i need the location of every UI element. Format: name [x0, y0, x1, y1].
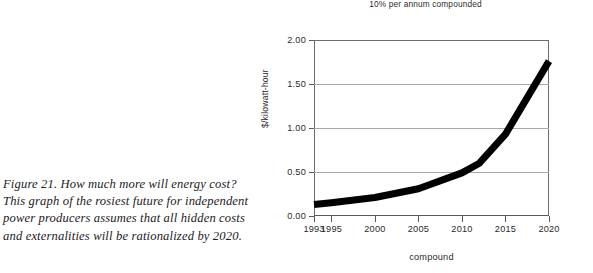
- chart-subtitle: 10% per annum compounded: [258, 0, 593, 10]
- x-tick-label: 2005: [408, 224, 429, 234]
- caption-line: and externalities will be rationalized b…: [3, 228, 251, 245]
- chart-figure: 10% per annum compounded $/kilowatt-hour…: [258, 0, 593, 273]
- y-tick-label: 0.50: [287, 167, 306, 177]
- x-tick-mark: [549, 216, 550, 222]
- y-tick-label: 1.50: [287, 79, 306, 89]
- x-tick-label: 2015: [495, 224, 516, 234]
- y-tick-label: 1.00: [287, 123, 306, 133]
- figure-caption: Figure 21. How much more will energy cos…: [3, 176, 251, 245]
- chart-title-block: 10% per annum compounded: [258, 0, 593, 10]
- caption-line: power producers assumes that all hidden …: [3, 210, 251, 227]
- x-tick-label: 2020: [538, 224, 559, 234]
- x-tick-mark: [418, 216, 419, 222]
- caption-line: Figure 21. How much more will energy cos…: [3, 176, 251, 193]
- y-tick-label: 0.00: [287, 211, 306, 221]
- y-axis-title: $/kilowatt-hour: [260, 69, 270, 128]
- figure-page: Figure 21. How much more will energy cos…: [0, 0, 593, 273]
- data-series: [314, 40, 549, 216]
- x-tick-label: 2010: [451, 224, 472, 234]
- caption-line: This graph of the rosiest future for ind…: [3, 193, 251, 210]
- x-tick-mark: [375, 216, 376, 222]
- series-polyline: [314, 61, 549, 204]
- plot-area: 0.000.501.001.502.00 1993199520002005201…: [314, 40, 549, 216]
- x-tick-mark: [462, 216, 463, 222]
- x-tick-mark: [331, 216, 332, 222]
- x-tick-label: 2000: [364, 224, 385, 234]
- x-tick-label: 1995: [321, 224, 342, 234]
- x-tick-mark: [505, 216, 506, 222]
- x-tick-mark: [314, 216, 315, 222]
- y-tick-label: 2.00: [287, 35, 306, 45]
- x-axis-title: compound: [314, 252, 549, 262]
